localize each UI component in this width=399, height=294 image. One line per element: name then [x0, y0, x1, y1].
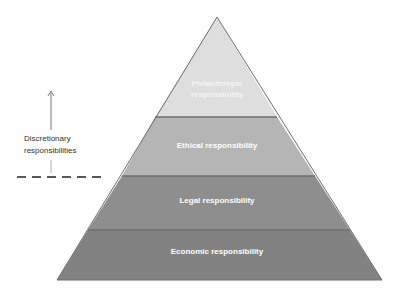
discretionary-label: Discretionary responsibilities — [24, 133, 76, 157]
level-philanthropic — [155, 17, 277, 117]
ethical-label: Ethical responsibility — [157, 140, 277, 151]
discretionary-line1: Discretionary — [24, 133, 76, 145]
discretionary-line2: responsibilities — [24, 145, 76, 157]
philanthropic-label: Philanthropic responsibility — [167, 78, 267, 100]
philanthropic-line1: Philanthropic — [167, 78, 267, 89]
philanthropic-line2: responsibility — [167, 89, 267, 100]
economic-label: Economic responsibility — [152, 246, 282, 257]
legal-label: Legal responsibility — [157, 195, 277, 206]
